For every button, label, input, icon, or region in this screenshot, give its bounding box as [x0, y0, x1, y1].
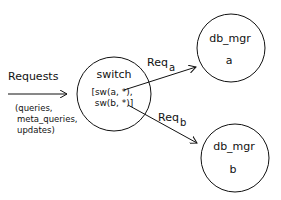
switch-line-2: sw(b, *)] — [95, 98, 134, 108]
edge-req-a: Reqa — [124, 56, 196, 90]
req-a-arrow — [124, 67, 196, 90]
switch-line-1: [sw(a, *), — [91, 87, 132, 97]
switch-node: switch [sw(a, *), sw(b, *)] — [77, 57, 151, 131]
db-mgr-a-sub: a — [226, 54, 233, 67]
db-mgr-a-node: db_mgr a — [197, 14, 265, 82]
edge-req-b: Reqb — [128, 105, 197, 143]
req-b-label: Reqb — [158, 111, 186, 128]
requests-detail-2: meta_queries, — [17, 114, 78, 124]
switch-title: switch — [96, 68, 131, 81]
requests-input: Requests (queries, meta_queries, updates… — [8, 70, 78, 135]
db-mgr-b-circle — [201, 124, 269, 192]
requests-label: Requests — [8, 70, 59, 83]
db-mgr-b-sub: b — [230, 163, 237, 176]
diagram-canvas: Requests (queries, meta_queries, updates… — [0, 0, 281, 200]
requests-detail-1: (queries, — [15, 103, 53, 113]
db-mgr-b-title: db_mgr — [213, 140, 255, 153]
requests-detail-3: updates) — [17, 125, 55, 135]
req-a-label: Reqa — [147, 56, 175, 73]
db-mgr-a-title: db_mgr — [209, 32, 251, 45]
db-mgr-a-circle — [197, 14, 265, 82]
db-mgr-b-node: db_mgr b — [201, 124, 269, 192]
